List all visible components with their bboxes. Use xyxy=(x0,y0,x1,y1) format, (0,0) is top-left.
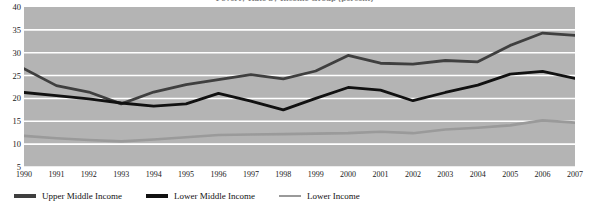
y-axis-tick-label: 15 xyxy=(1,117,21,125)
x-axis-tick-label: 1997 xyxy=(234,170,268,180)
x-axis-tick-label: 2000 xyxy=(331,170,365,180)
x-axis-tick-label: 2004 xyxy=(461,170,495,180)
x-axis-tick-label: 1998 xyxy=(266,170,300,180)
legend-label: Upper Middle Income xyxy=(42,191,122,201)
plot-area xyxy=(24,7,575,167)
x-axis-tick-label: 1999 xyxy=(299,170,333,180)
y-axis-tick-label: 20 xyxy=(1,94,21,102)
x-axis-tick-label: 2006 xyxy=(526,170,560,180)
legend-item[interactable]: Lower Income xyxy=(279,191,360,201)
y-axis-tick-label: 35 xyxy=(1,26,21,34)
x-axis: 1990199119921993199419951996199719981999… xyxy=(24,170,575,182)
chart-legend: Upper Middle IncomeLower Middle IncomeLo… xyxy=(0,188,589,204)
y-axis-tick-label: 30 xyxy=(1,49,21,57)
legend-item[interactable]: Upper Middle Income xyxy=(14,191,122,201)
x-axis-tick-label: 1996 xyxy=(201,170,235,180)
x-axis-tick-label: 2003 xyxy=(428,170,462,180)
x-axis-tick-label: 1994 xyxy=(137,170,171,180)
chart-title: Poverty Rate by Income Group (percent) xyxy=(0,0,589,2)
series-line-1 xyxy=(24,71,575,109)
legend-item[interactable]: Lower Middle Income xyxy=(146,191,255,201)
x-axis-tick-label: 1991 xyxy=(39,170,73,180)
plot-svg xyxy=(24,7,575,167)
y-axis-tick-label: 40 xyxy=(1,3,21,11)
x-axis-tick-label: 1990 xyxy=(7,170,41,180)
y-axis-tick-label: 10 xyxy=(1,140,21,148)
legend-swatch-icon xyxy=(14,194,36,197)
y-axis-tick-label: 25 xyxy=(1,72,21,80)
series-line-0 xyxy=(24,33,575,104)
x-axis-tick-label: 1993 xyxy=(104,170,138,180)
legend-swatch-icon xyxy=(279,195,301,198)
legend-swatch-icon xyxy=(146,194,168,197)
series-lines xyxy=(24,33,575,141)
x-axis-tick-label: 1995 xyxy=(169,170,203,180)
legend-label: Lower Middle Income xyxy=(174,191,255,201)
series-line-2 xyxy=(24,120,575,141)
x-axis-tick-label: 2002 xyxy=(396,170,430,180)
x-axis-tick-label: 1992 xyxy=(72,170,106,180)
x-axis-tick-label: 2001 xyxy=(364,170,398,180)
x-axis-tick-label: 2007 xyxy=(558,170,589,180)
legend-label: Lower Income xyxy=(307,191,360,201)
x-axis-tick-label: 2005 xyxy=(493,170,527,180)
income-group-line-chart: Poverty Rate by Income Group (percent) 4… xyxy=(0,0,589,205)
